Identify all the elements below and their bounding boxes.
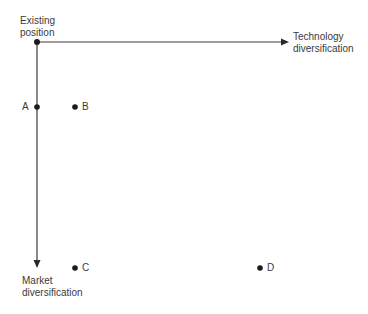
origin-dot-icon <box>34 39 40 45</box>
x-axis-label-line2: diversification <box>293 43 354 55</box>
point-b-dot-icon <box>72 104 78 110</box>
origin-label: Existing position <box>20 15 55 39</box>
point-c-dot-icon <box>72 265 78 271</box>
origin-label-line2: position <box>20 27 55 39</box>
point-d-label: D <box>267 262 274 274</box>
point-a-label: A <box>22 101 29 113</box>
y-axis-label-line1: Market <box>22 275 83 287</box>
point-d-dot-icon <box>257 265 263 271</box>
market-diversification-label: Market diversification <box>22 275 83 299</box>
x-axis-label-line1: Technology <box>293 31 354 43</box>
y-axis-label-line2: diversification <box>22 287 83 299</box>
technology-axis-arrowhead-icon <box>281 39 289 46</box>
point-c-label: C <box>82 262 89 274</box>
point-b-label: B <box>82 101 89 113</box>
market-axis-arrowhead-icon <box>34 260 41 268</box>
technology-diversification-label: Technology diversification <box>293 31 354 55</box>
diversification-diagram: Existing position Technology diversifica… <box>0 0 368 314</box>
origin-label-line1: Existing <box>20 15 55 27</box>
point-a-dot-icon <box>34 104 40 110</box>
